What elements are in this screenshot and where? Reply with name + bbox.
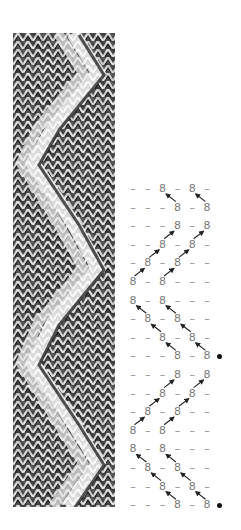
purl-symbol: – — [127, 480, 139, 494]
purl-symbol: – — [157, 312, 169, 326]
cable-stitch-symbol: 8 — [186, 331, 198, 345]
purl-symbol: – — [201, 424, 213, 438]
purl-symbol: – — [157, 498, 169, 512]
purl-symbol: – — [186, 219, 198, 233]
purl-symbol: – — [186, 275, 198, 289]
purl-symbol: – — [127, 498, 139, 512]
purl-symbol: – — [186, 424, 198, 438]
purl-symbol: – — [142, 294, 154, 308]
cable-stitch-symbol: 8 — [171, 201, 183, 215]
purl-symbol: – — [142, 275, 154, 289]
purl-symbol: – — [127, 312, 139, 326]
purl-symbol: – — [127, 182, 139, 196]
purl-symbol: – — [186, 498, 198, 512]
purl-symbol: – — [201, 312, 213, 326]
purl-symbol: – — [142, 387, 154, 401]
cable-stitch-symbol: 8 — [157, 238, 169, 252]
purl-symbol: – — [127, 461, 139, 475]
purl-symbol: – — [171, 238, 183, 252]
purl-symbol: – — [157, 201, 169, 215]
cable-stitch-symbol: 8 — [142, 405, 154, 419]
purl-symbol: – — [127, 201, 139, 215]
purl-symbol: – — [171, 331, 183, 345]
cable-stitch-symbol: 8 — [171, 349, 183, 363]
cable-stitch-symbol: 8 — [127, 294, 139, 308]
purl-symbol: – — [171, 480, 183, 494]
purl-symbol: – — [127, 368, 139, 382]
purl-symbol: – — [186, 442, 198, 456]
purl-symbol: – — [201, 294, 213, 308]
purl-symbol: – — [157, 461, 169, 475]
purl-symbol: – — [127, 256, 139, 270]
purl-symbol: – — [201, 405, 213, 419]
purl-symbol: – — [201, 238, 213, 252]
purl-symbol: – — [201, 275, 213, 289]
cable-stitch-symbol: 8 — [171, 368, 183, 382]
purl-symbol: – — [157, 349, 169, 363]
purl-symbol: – — [201, 480, 213, 494]
purl-symbol: – — [201, 256, 213, 270]
cable-stitch-symbol: 8 — [171, 461, 183, 475]
purl-symbol: – — [201, 182, 213, 196]
cable-stitch-symbol: 8 — [157, 182, 169, 196]
purl-symbol: – — [186, 312, 198, 326]
purl-symbol: – — [171, 294, 183, 308]
purl-symbol: – — [142, 331, 154, 345]
purl-symbol: – — [142, 442, 154, 456]
purl-symbol: – — [171, 182, 183, 196]
cable-stitch-symbol: 8 — [186, 480, 198, 494]
purl-symbol: – — [171, 275, 183, 289]
purl-symbol: – — [127, 238, 139, 252]
purl-symbol: – — [142, 424, 154, 438]
row-marker-bullet — [217, 503, 222, 508]
purl-symbol: – — [142, 238, 154, 252]
purl-symbol: – — [157, 368, 169, 382]
row-marker-bullet — [217, 354, 222, 359]
cable-stitch-symbol: 8 — [171, 405, 183, 419]
purl-symbol: – — [186, 294, 198, 308]
purl-symbol: – — [186, 368, 198, 382]
purl-symbol: – — [157, 256, 169, 270]
cable-stitch-symbol: 8 — [157, 442, 169, 456]
cable-stitch-symbol: 8 — [186, 182, 198, 196]
cable-stitch-symbol: 8 — [127, 424, 139, 438]
purl-symbol: – — [157, 219, 169, 233]
purl-symbol: – — [186, 256, 198, 270]
cable-stitch-symbol: 8 — [171, 256, 183, 270]
cable-chart: ––8–8––––8–8–––8–8––8–8––8–8––8–8–––8–8–… — [0, 0, 241, 530]
cable-stitch-symbol: 8 — [201, 201, 213, 215]
purl-symbol: – — [201, 387, 213, 401]
purl-symbol: – — [142, 498, 154, 512]
cable-stitch-symbol: 8 — [142, 461, 154, 475]
cable-stitch-symbol: 8 — [171, 219, 183, 233]
cable-stitch-symbol: 8 — [186, 387, 198, 401]
cable-stitch-symbol: 8 — [186, 238, 198, 252]
purl-symbol: – — [142, 480, 154, 494]
cable-stitch-symbol: 8 — [157, 331, 169, 345]
purl-symbol: – — [201, 442, 213, 456]
purl-symbol: – — [127, 349, 139, 363]
cable-stitch-symbol: 8 — [201, 219, 213, 233]
cable-stitch-symbol: 8 — [157, 387, 169, 401]
purl-symbol: – — [142, 349, 154, 363]
cable-stitch-symbol: 8 — [157, 275, 169, 289]
purl-symbol: – — [127, 387, 139, 401]
cable-stitch-symbol: 8 — [171, 498, 183, 512]
purl-symbol: – — [201, 331, 213, 345]
purl-symbol: – — [142, 182, 154, 196]
cable-stitch-symbol: 8 — [201, 349, 213, 363]
purl-symbol: – — [186, 349, 198, 363]
purl-symbol: – — [142, 219, 154, 233]
purl-symbol: – — [171, 387, 183, 401]
purl-symbol: – — [127, 219, 139, 233]
purl-symbol: – — [186, 461, 198, 475]
purl-symbol: – — [201, 461, 213, 475]
cable-stitch-symbol: 8 — [201, 368, 213, 382]
purl-symbol: – — [186, 201, 198, 215]
purl-symbol: – — [186, 405, 198, 419]
purl-symbol: – — [142, 201, 154, 215]
purl-symbol: – — [127, 405, 139, 419]
cable-stitch-symbol: 8 — [142, 312, 154, 326]
purl-symbol: – — [127, 331, 139, 345]
cable-stitch-symbol: 8 — [157, 480, 169, 494]
